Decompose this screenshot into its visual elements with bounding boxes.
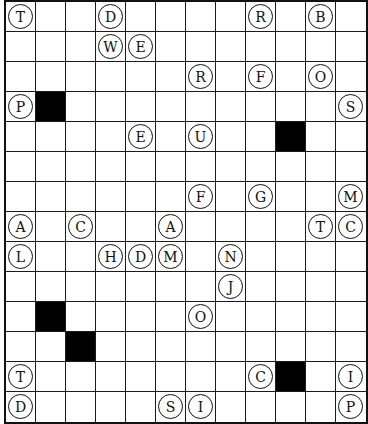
grid-cell[interactable]: [36, 332, 66, 362]
grid-cell[interactable]: [306, 182, 336, 212]
grid-cell[interactable]: [246, 332, 276, 362]
grid-cell[interactable]: [306, 152, 336, 182]
grid-cell[interactable]: [246, 32, 276, 62]
grid-cell[interactable]: [36, 212, 66, 242]
grid-cell[interactable]: [156, 272, 186, 302]
grid-cell[interactable]: [66, 362, 96, 392]
grid-cell[interactable]: [186, 362, 216, 392]
grid-cell[interactable]: [126, 182, 156, 212]
grid-cell[interactable]: [6, 182, 36, 212]
grid-cell[interactable]: [246, 272, 276, 302]
grid-cell[interactable]: [246, 212, 276, 242]
grid-cell[interactable]: [336, 122, 366, 152]
grid-cell[interactable]: [126, 92, 156, 122]
grid-cell[interactable]: [276, 272, 306, 302]
grid-cell[interactable]: [336, 32, 366, 62]
grid-cell[interactable]: I: [336, 362, 366, 392]
grid-cell[interactable]: [216, 362, 246, 392]
grid-cell[interactable]: [36, 392, 66, 422]
grid-cell[interactable]: [216, 182, 246, 212]
grid-cell[interactable]: [156, 182, 186, 212]
grid-cell[interactable]: [216, 332, 246, 362]
grid-cell[interactable]: N: [216, 242, 246, 272]
grid-cell[interactable]: [216, 122, 246, 152]
grid-cell[interactable]: D: [6, 392, 36, 422]
grid-cell[interactable]: [6, 302, 36, 332]
grid-cell[interactable]: [126, 152, 156, 182]
grid-cell[interactable]: W: [96, 32, 126, 62]
grid-cell[interactable]: A: [156, 212, 186, 242]
grid-cell[interactable]: [66, 242, 96, 272]
grid-cell[interactable]: B: [306, 2, 336, 32]
grid-cell[interactable]: [66, 272, 96, 302]
grid-cell[interactable]: [66, 392, 96, 422]
grid-cell[interactable]: [156, 122, 186, 152]
grid-cell[interactable]: [246, 392, 276, 422]
grid-cell[interactable]: M: [156, 242, 186, 272]
grid-cell[interactable]: [276, 2, 306, 32]
grid-cell[interactable]: [216, 2, 246, 32]
grid-cell[interactable]: [336, 302, 366, 332]
grid-cell[interactable]: [96, 92, 126, 122]
grid-cell[interactable]: [126, 302, 156, 332]
grid-cell[interactable]: [6, 62, 36, 92]
grid-cell[interactable]: I: [186, 392, 216, 422]
grid-cell[interactable]: [126, 362, 156, 392]
grid-cell[interactable]: [156, 362, 186, 392]
grid-cell[interactable]: [276, 62, 306, 92]
grid-cell[interactable]: [216, 212, 246, 242]
grid-cell[interactable]: U: [186, 122, 216, 152]
grid-cell[interactable]: [36, 242, 66, 272]
grid-cell[interactable]: [306, 242, 336, 272]
grid-cell[interactable]: [36, 62, 66, 92]
grid-cell[interactable]: [66, 122, 96, 152]
grid-cell[interactable]: [276, 182, 306, 212]
grid-cell[interactable]: [156, 62, 186, 92]
grid-cell[interactable]: [66, 152, 96, 182]
grid-cell[interactable]: O: [186, 302, 216, 332]
grid-cell[interactable]: D: [126, 242, 156, 272]
grid-cell[interactable]: [276, 392, 306, 422]
grid-cell[interactable]: [306, 32, 336, 62]
grid-cell[interactable]: [96, 152, 126, 182]
grid-cell[interactable]: [96, 122, 126, 152]
grid-cell[interactable]: [216, 92, 246, 122]
grid-cell[interactable]: E: [126, 122, 156, 152]
grid-cell[interactable]: [156, 302, 186, 332]
grid-cell[interactable]: [336, 272, 366, 302]
grid-cell[interactable]: [6, 122, 36, 152]
grid-cell[interactable]: [336, 2, 366, 32]
grid-cell[interactable]: R: [186, 62, 216, 92]
grid-cell[interactable]: [36, 182, 66, 212]
grid-cell[interactable]: [6, 152, 36, 182]
grid-cell[interactable]: [126, 2, 156, 32]
grid-cell[interactable]: [96, 332, 126, 362]
grid-cell[interactable]: [336, 332, 366, 362]
grid-cell[interactable]: P: [6, 92, 36, 122]
grid-cell[interactable]: [186, 272, 216, 302]
grid-cell[interactable]: [336, 62, 366, 92]
grid-cell[interactable]: [96, 392, 126, 422]
grid-cell[interactable]: [66, 182, 96, 212]
grid-cell[interactable]: [276, 32, 306, 62]
grid-cell[interactable]: [306, 122, 336, 152]
grid-cell[interactable]: R: [246, 2, 276, 32]
grid-cell[interactable]: [306, 272, 336, 302]
grid-cell[interactable]: [6, 332, 36, 362]
grid-cell[interactable]: [276, 212, 306, 242]
grid-cell[interactable]: [186, 332, 216, 362]
grid-cell[interactable]: [156, 92, 186, 122]
grid-cell[interactable]: S: [156, 392, 186, 422]
grid-cell[interactable]: T: [306, 212, 336, 242]
grid-cell[interactable]: [6, 32, 36, 62]
grid-cell[interactable]: [126, 392, 156, 422]
grid-cell[interactable]: [156, 32, 186, 62]
grid-cell[interactable]: [36, 122, 66, 152]
grid-cell[interactable]: [276, 92, 306, 122]
grid-cell[interactable]: [276, 152, 306, 182]
grid-cell[interactable]: [306, 302, 336, 332]
grid-cell[interactable]: [246, 92, 276, 122]
grid-cell[interactable]: P: [336, 392, 366, 422]
grid-cell[interactable]: O: [306, 62, 336, 92]
grid-cell[interactable]: [186, 212, 216, 242]
